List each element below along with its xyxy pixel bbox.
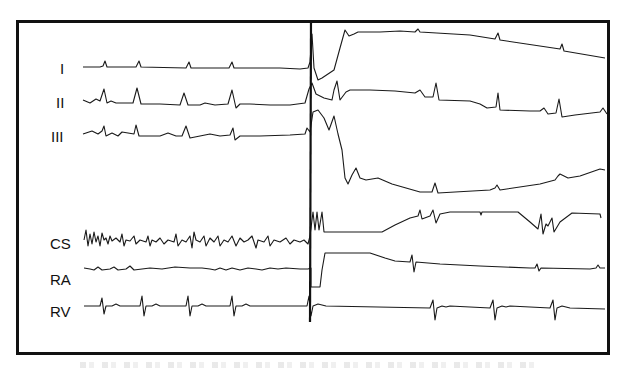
stimulus-marker-line	[310, 22, 311, 322]
trace-lead-i	[83, 29, 605, 80]
electrogram-traces	[0, 0, 626, 371]
trace-cs	[84, 210, 601, 248]
figure-caption-illegible	[80, 362, 540, 368]
trace-rv	[84, 296, 605, 320]
trace-lead-ii	[83, 81, 607, 117]
trace-lead-iii	[83, 110, 605, 193]
trace-ra	[84, 253, 605, 287]
